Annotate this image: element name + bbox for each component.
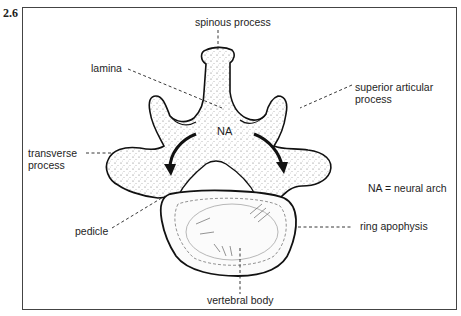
legend-na-neural-arch: NA = neural arch: [368, 183, 447, 195]
label-ring-apophysis: ring apophysis: [360, 221, 428, 233]
label-spinous-process: spinous process: [195, 17, 271, 29]
label-vertebral-body: vertebral body: [207, 295, 274, 307]
label-transverse-process: transverse process: [28, 148, 77, 171]
label-superior-articular-process: superior articular process: [355, 82, 433, 105]
label-na: NA: [217, 125, 232, 137]
label-pedicle: pedicle: [75, 226, 108, 238]
vertebral-body-shape: [161, 191, 296, 276]
neural-arch-shape: [106, 47, 330, 198]
label-lamina: lamina: [91, 63, 122, 75]
